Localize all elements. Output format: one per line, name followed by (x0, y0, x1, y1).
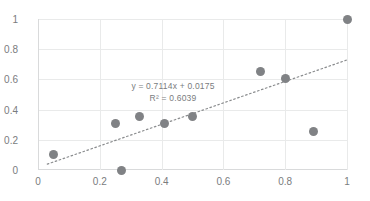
y-tick-label: 1 (0, 14, 18, 25)
x-tick-label: 0.8 (270, 176, 300, 187)
x-tick-label: 0 (23, 176, 53, 187)
x-tick-label: 1 (332, 176, 362, 187)
x-tick-label: 0.4 (147, 176, 177, 187)
x-tick-label: 0.2 (85, 176, 115, 187)
data-point[interactable] (117, 166, 126, 175)
y-tick-label: 0.2 (0, 134, 18, 145)
y-tick-label: 0.6 (0, 74, 18, 85)
data-point[interactable] (256, 67, 265, 76)
trendline-equation-annotation: y = 0.7114x + 0.0175 R² = 0.6039 (120, 80, 226, 104)
trendline-segment (47, 60, 347, 164)
y-tick-label: 0.8 (0, 44, 18, 55)
r-squared-text: R² = 0.6039 (120, 92, 226, 104)
scatter-chart: 00.20.40.60.81 00.20.40.60.81 y = 0.7114… (0, 0, 370, 201)
data-point[interactable] (309, 127, 318, 136)
data-point[interactable] (281, 74, 290, 83)
y-tick-label: 0.4 (0, 104, 18, 115)
data-point[interactable] (343, 15, 352, 24)
gridline-vertical (347, 19, 348, 170)
equation-text: y = 0.7114x + 0.0175 (120, 80, 226, 92)
data-point[interactable] (188, 112, 197, 121)
y-tick-label: 0 (0, 165, 18, 176)
x-tick-label: 0.6 (208, 176, 238, 187)
